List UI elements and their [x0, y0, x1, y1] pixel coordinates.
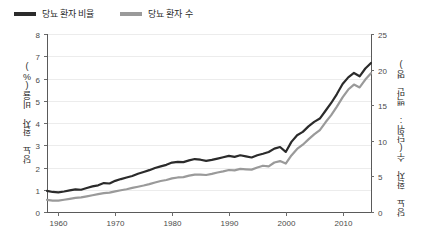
- x-tick-label: 1960: [50, 219, 68, 228]
- y-right-tick-label: 25: [378, 31, 387, 40]
- y-axis-left-title: 당뇨 환자 비율(%): [22, 62, 36, 182]
- y-left-tick-label: 7: [36, 53, 41, 62]
- y-left-tick-label: 2: [36, 165, 41, 174]
- y-left-tick-label: 8: [36, 31, 41, 40]
- plot-area: 0123456780510152025196019701980199020002…: [0, 0, 424, 244]
- y-right-tick-label: 5: [378, 173, 383, 182]
- y-right-tick-label: 15: [378, 102, 387, 111]
- y-axis-right-title-text: 당뇨 환자 수(단위: 백만 명): [396, 60, 406, 217]
- y-left-tick-label: 6: [36, 76, 41, 85]
- axis-tick-labels: 0123456780510152025196019701980199020002…: [36, 31, 388, 229]
- y-left-tick-label: 0: [36, 209, 41, 218]
- y-left-tick-label: 3: [36, 142, 41, 151]
- x-tick-label: 2000: [278, 219, 296, 228]
- x-tick-label: 1970: [107, 219, 125, 228]
- x-tick-label: 2010: [335, 219, 353, 228]
- y-axis-left-title-text: 당뇨 환자 비율(%): [22, 62, 32, 164]
- y-left-tick-label: 1: [36, 187, 41, 196]
- y-right-tick-label: 10: [378, 138, 387, 147]
- series-line-count: [47, 73, 371, 200]
- x-tick-label: 1990: [221, 219, 239, 228]
- y-right-tick-label: 0: [378, 209, 383, 218]
- diabetes-trend-chart: 당뇨 환자 비율 당뇨 환자 수 01234567805101520251960…: [0, 0, 424, 244]
- y-axis-right-title: 당뇨 환자 수(단위: 백만 명): [396, 60, 410, 190]
- y-left-tick-label: 5: [36, 98, 41, 107]
- y-right-tick-label: 20: [378, 67, 387, 76]
- y-left-tick-label: 4: [36, 120, 41, 129]
- data-series: [47, 63, 371, 201]
- x-tick-label: 1980: [164, 219, 182, 228]
